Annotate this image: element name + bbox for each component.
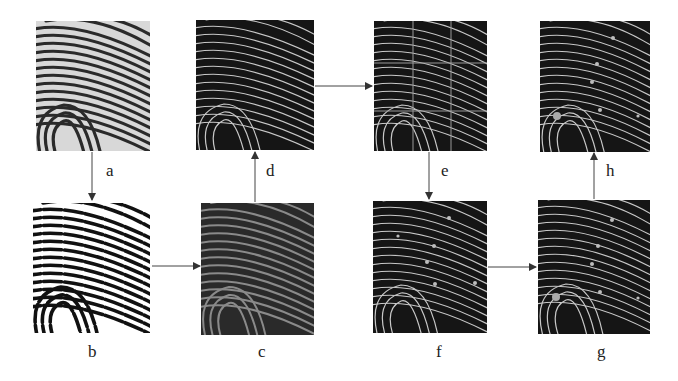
panel-e-grid-partitioned-fingerprint [374,21,487,151]
panel-f-minutiae-fingerprint [373,201,487,333]
panel-a-original-fingerprint [36,21,150,151]
panel-c-enhanced-fingerprint [201,203,314,335]
label-d: d [266,162,275,179]
core-point [552,293,560,301]
label-h: h [606,162,615,179]
panel-b-binarized-fingerprint [33,203,150,333]
label-e: e [441,162,449,179]
fingerprint-image-binarized [33,203,150,333]
fingerprint-image-final [540,21,650,152]
label-a: a [106,162,114,179]
fingerprint-image-minutiae-core [538,200,650,334]
label-c: c [258,343,266,360]
fingerprint-image-minutiae [373,201,487,333]
fingerprint-image-grid [374,21,487,151]
label-f: f [436,343,442,360]
core-point [553,112,561,120]
label-b: b [88,343,97,360]
fingerprint-image-thinned [196,20,314,150]
fingerprint-image-enhanced [201,203,314,335]
panel-g-minutiae-core-fingerprint [538,200,650,334]
fingerprint-image-original [36,21,150,151]
panel-h-final-fingerprint [540,21,650,152]
panel-d-thinned-fingerprint [196,20,314,150]
label-g: g [597,343,606,360]
